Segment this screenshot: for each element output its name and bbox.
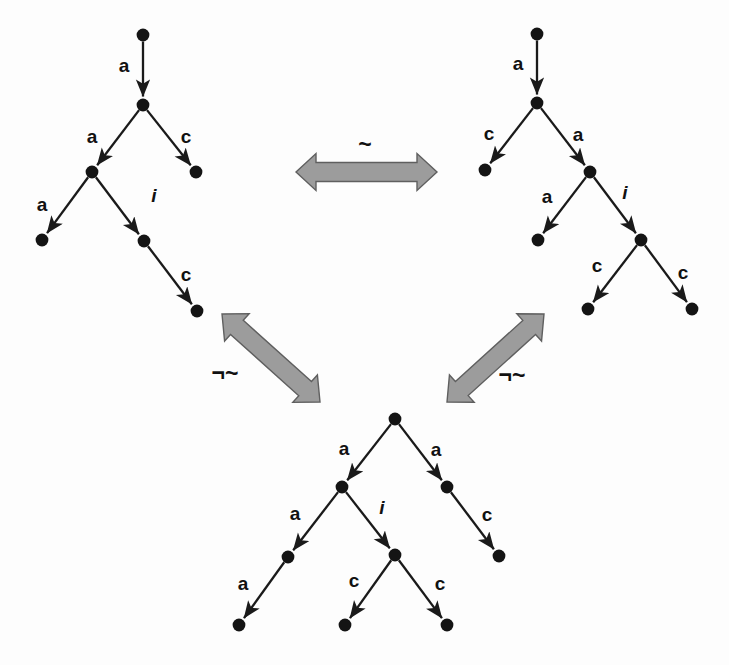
bisimulation-diagram: aacaicacaaiccaaaicacc ~¬~¬~	[0, 0, 729, 665]
edge-label-top-right-tree-4: i	[622, 182, 628, 203]
tree-node-top-right-tree-6[interactable]	[582, 303, 595, 316]
tree-node-bottom-tree-2[interactable]	[441, 481, 454, 494]
edge-label-top-left-tree-2: c	[181, 126, 192, 147]
edge-label-top-right-tree-1: c	[484, 123, 495, 144]
edge-label-top-left-tree-5: c	[181, 264, 192, 285]
edge-label-bottom-tree-6: c	[349, 570, 360, 591]
tree-node-top-right-tree-7[interactable]	[686, 303, 699, 316]
tree-node-bottom-tree-7[interactable]	[339, 619, 352, 632]
tree-node-top-right-tree-1[interactable]	[531, 97, 544, 110]
tree-edge-bottom-tree-5	[244, 562, 284, 618]
equivalence-arrow-top[interactable]	[296, 154, 437, 191]
tree-node-bottom-tree-0[interactable]	[389, 413, 402, 426]
edge-label-bottom-tree-4: c	[482, 504, 493, 525]
tree-node-bottom-tree-8[interactable]	[441, 619, 454, 632]
tree-edge-top-left-tree-1	[97, 110, 139, 165]
tree-node-top-right-tree-5[interactable]	[635, 234, 648, 247]
tree-node-top-left-tree-0[interactable]	[137, 29, 150, 42]
tree-node-top-right-tree-3[interactable]	[584, 166, 597, 179]
edge-label-top-left-tree-4: i	[151, 185, 157, 206]
equivalence-arrow-top-label: ~	[358, 131, 371, 157]
tree-nodes-layer	[36, 28, 699, 632]
edge-label-top-right-tree-6: c	[678, 262, 689, 283]
tree-node-top-left-tree-2[interactable]	[86, 166, 99, 179]
non-equivalence-arrow-left[interactable]	[222, 314, 320, 403]
tree-node-bottom-tree-5[interactable]	[493, 550, 506, 563]
edge-label-bottom-tree-7: c	[435, 573, 446, 594]
tree-node-top-left-tree-5[interactable]	[138, 235, 151, 248]
edge-label-top-left-tree-0: a	[119, 55, 130, 76]
tree-edge-top-right-tree-4	[594, 177, 636, 233]
tree-edge-top-left-tree-3	[47, 177, 88, 233]
edge-label-top-right-tree-3: a	[542, 186, 553, 207]
non-equivalence-arrow-left-label: ¬~	[212, 360, 239, 386]
tree-node-bottom-tree-1[interactable]	[336, 481, 349, 494]
diagram-canvas: aacaicacaaiccaaaicacc ~¬~¬~	[0, 0, 729, 665]
tree-node-bottom-tree-3[interactable]	[282, 551, 295, 564]
tree-node-top-left-tree-3[interactable]	[190, 166, 203, 179]
edge-label-bottom-tree-2: a	[290, 503, 301, 524]
tree-edges-layer	[47, 41, 687, 619]
edge-label-bottom-tree-3: i	[379, 497, 385, 518]
tree-edge-bottom-tree-0	[347, 424, 391, 480]
edge-label-top-left-tree-3: a	[37, 194, 48, 215]
tree-node-top-right-tree-2[interactable]	[479, 164, 492, 177]
tree-node-top-right-tree-4[interactable]	[532, 234, 545, 247]
tree-node-bottom-tree-6[interactable]	[233, 619, 246, 632]
edge-label-top-right-tree-2: a	[573, 124, 584, 145]
tree-node-top-left-tree-4[interactable]	[36, 234, 49, 247]
non-equivalence-arrow-right[interactable]	[447, 314, 544, 402]
edge-label-bottom-tree-5: a	[238, 573, 249, 594]
tree-node-top-left-tree-1[interactable]	[137, 99, 150, 112]
tree-node-top-right-tree-0[interactable]	[531, 28, 544, 41]
tree-edge-top-right-tree-1	[490, 108, 533, 163]
edge-label-top-right-tree-5: c	[592, 255, 603, 276]
edge-label-bottom-tree-1: a	[431, 439, 442, 460]
relation-arrows-layer: ~¬~¬~	[212, 131, 544, 402]
tree-edge-top-left-tree-4	[96, 177, 139, 234]
edge-label-top-right-tree-0: a	[513, 53, 524, 74]
non-equivalence-arrow-right-label: ¬~	[499, 362, 526, 388]
tree-node-top-left-tree-6[interactable]	[191, 305, 204, 318]
edge-label-top-left-tree-1: a	[87, 126, 98, 147]
edge-label-bottom-tree-0: a	[339, 438, 350, 459]
tree-node-bottom-tree-4[interactable]	[389, 549, 402, 562]
